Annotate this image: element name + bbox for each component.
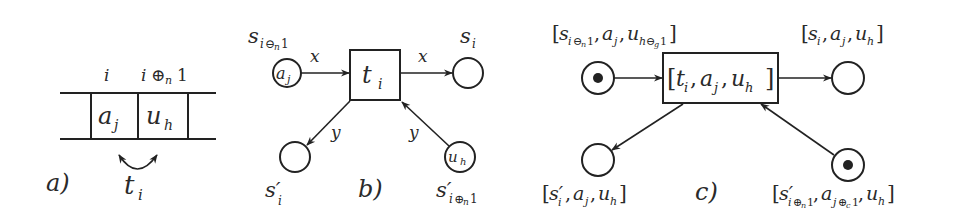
place-s-prime-i [280,142,310,172]
cell-uh: u h [146,102,173,133]
arc-label-y: y [408,122,419,142]
panel-c: [ t i , a j , u h ] [ s i ⊖ n 1 [542,21,895,210]
place-c-prime-out [582,144,614,176]
transition-label-c: [ t i , a j , u h ] [667,64,774,95]
svg-text:a: a [98,102,112,130]
token-dot-icon [593,73,603,83]
svg-text:,: , [822,22,828,44]
svg-text:]: ] [669,21,677,45]
svg-text:i: i [684,80,688,95]
svg-text:u: u [598,182,610,204]
arc-out-y [307,101,350,145]
svg-text:u: u [146,102,161,130]
arc-c-prime-in [761,104,834,155]
svg-text:n: n [581,40,586,49]
svg-text:,: , [721,66,728,91]
svg-text:n: n [274,42,280,52]
svg-text:1: 1 [177,65,188,85]
svg-text:1: 1 [281,37,289,51]
svg-text:,: , [565,182,571,204]
svg-text:a: a [602,22,613,44]
transition-label-ti: t i [124,170,143,204]
place-c-out [832,62,864,94]
svg-text:i: i [558,196,562,209]
svg-text:,: , [858,182,864,204]
svg-text:n: n [463,197,469,207]
svg-text:a: a [700,66,713,91]
svg-text:,: , [847,22,853,44]
caption-a: a) [46,169,70,197]
svg-text:,: , [594,22,600,44]
svg-text:a: a [821,182,832,204]
svg-text:i: i [260,37,264,51]
svg-text:,: , [690,66,697,91]
svg-text:h: h [745,80,753,95]
svg-text:i: i [788,196,792,209]
svg-text:c: c [846,201,851,210]
swap-arrow-icon [119,155,157,169]
svg-text:i: i [141,65,146,85]
svg-text:1: 1 [587,35,594,48]
svg-text:h: h [610,195,617,208]
svg-text:u: u [866,182,878,204]
svg-text:s′: s′ [779,182,794,204]
svg-text:,: , [590,182,596,204]
svg-text:,: , [619,22,625,44]
label-c-in: [ s i ⊖ n 1 , a j , u h ⊖ g 1 ] [552,21,677,49]
svg-text:i: i [278,194,282,208]
panel-b: t i a j u h x x y y s i ⊖ n 1 s i [248,24,483,208]
panel-a: i i ⊕ n 1 a j u h a) t i [46,65,216,204]
arc-label-x: x [418,46,428,66]
svg-text:u: u [731,66,745,91]
token-dot-icon [843,160,853,170]
svg-text:g: g [654,40,659,49]
svg-text:i: i [472,37,476,51]
svg-text:i: i [138,186,143,204]
svg-text:u: u [627,22,639,44]
svg-text:⊕: ⊕ [151,65,165,85]
svg-text:i: i [817,35,821,48]
svg-text:1: 1 [470,192,478,206]
place-s-i [453,58,483,88]
svg-text:]: ] [619,181,627,205]
label-c-prime-out: [ s′ i , a j , u h ] [542,181,627,209]
svg-text:t: t [124,170,135,200]
svg-text:,: , [813,182,819,204]
position-label-i-plus-1: i ⊕ n 1 [141,65,188,87]
svg-text:u: u [855,22,867,44]
svg-text:a: a [830,22,841,44]
svg-text:]: ] [765,64,774,92]
position-label-i: i [104,65,109,85]
svg-text:n: n [801,201,806,210]
caption-b: b) [358,175,383,203]
arc-label-x: x [310,46,320,66]
svg-text:h: h [867,35,874,48]
svg-text:a: a [573,182,584,204]
svg-text:]: ] [876,21,884,45]
svg-text:i: i [449,192,453,206]
svg-text:u: u [448,148,458,166]
svg-text:1: 1 [660,35,667,48]
label-c-out: [ s i , a j , u h ] [801,21,884,48]
svg-text:s′: s′ [549,182,564,204]
svg-text:[: [ [667,64,676,92]
svg-text:h: h [878,195,885,208]
svg-text:s: s [460,24,471,48]
svg-text:i: i [378,76,382,92]
cell-aj: a j [98,102,119,133]
label-s-prime-i: s′ i [265,178,282,208]
svg-text:t: t [362,61,372,89]
arc-c-prime-out [612,104,683,150]
caption-c: c) [695,178,718,206]
label-s-i: s i [460,24,476,51]
svg-text:a: a [276,64,286,83]
label-c-prime-in: [ s′ i ⊕ n 1 , a j ⊕ c 1 , u h ] [772,181,895,210]
figure-canvas: i i ⊕ n 1 a j u h a) t i t i a j [0,0,967,221]
svg-text:s: s [248,24,259,48]
transition-ti [350,50,400,100]
svg-text:h: h [460,156,466,167]
label-s-i-minus-1: s i ⊖ n 1 [248,24,289,52]
svg-text:]: ] [887,181,895,205]
svg-text:n: n [165,74,172,87]
svg-text:i: i [568,35,572,48]
